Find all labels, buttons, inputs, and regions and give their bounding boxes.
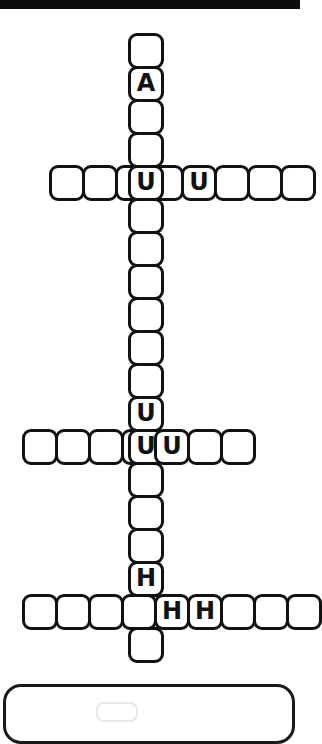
crossword-cell[interactable]: U <box>154 429 190 465</box>
crossword-cell[interactable] <box>128 627 164 663</box>
crossword-cell[interactable] <box>128 99 164 135</box>
cell-letter: H <box>162 599 182 623</box>
crossword-cell[interactable] <box>128 330 164 366</box>
crossword-cell[interactable]: H <box>187 594 223 630</box>
crossword-cell[interactable] <box>220 429 256 465</box>
crossword-cell[interactable] <box>88 429 124 465</box>
cell-letter: U <box>136 170 156 194</box>
crossword-cell[interactable] <box>214 165 250 201</box>
crossword-cell[interactable] <box>280 165 316 201</box>
crossword-cell[interactable] <box>286 594 322 630</box>
crossword-cell[interactable] <box>128 297 164 333</box>
crossword-cell[interactable] <box>128 33 164 69</box>
crossword-cell[interactable] <box>55 429 91 465</box>
crossword-cell[interactable] <box>22 429 58 465</box>
crossword-cell[interactable] <box>128 363 164 399</box>
crossword-cell[interactable] <box>128 231 164 267</box>
crossword-cell[interactable] <box>128 198 164 234</box>
crossword-cell[interactable] <box>82 165 118 201</box>
crossword-cell[interactable] <box>220 594 256 630</box>
crossword-cell[interactable]: U <box>181 165 217 201</box>
status-bar <box>0 0 300 9</box>
crossword-cell[interactable] <box>128 495 164 531</box>
crossword-cell[interactable] <box>128 528 164 564</box>
cell-letter: U <box>162 434 182 458</box>
cell-letter: H <box>136 566 156 590</box>
crossword-cell[interactable] <box>121 594 157 630</box>
crossword-cell[interactable]: A <box>128 66 164 102</box>
cell-letter: H <box>195 599 215 623</box>
crossword-cell[interactable] <box>49 165 85 201</box>
crossword-cell[interactable] <box>128 462 164 498</box>
crossword-cell[interactable] <box>187 429 223 465</box>
cell-letter: U <box>136 401 156 425</box>
crossword-cell[interactable]: H <box>154 594 190 630</box>
crossword-cell[interactable] <box>55 594 91 630</box>
cell-letter: U <box>189 170 209 194</box>
cell-letter: U <box>136 434 156 458</box>
crossword-cell[interactable]: U <box>128 165 164 201</box>
bottom-panel[interactable] <box>3 684 295 744</box>
crossword-cell[interactable]: H <box>128 561 164 597</box>
crossword-cell[interactable] <box>88 594 124 630</box>
crossword-cell[interactable] <box>247 165 283 201</box>
crossword-cell[interactable] <box>22 594 58 630</box>
crossword-cell[interactable] <box>128 132 164 168</box>
crossword-cell[interactable]: U <box>128 396 164 432</box>
cell-letter: A <box>137 71 156 95</box>
crossword-cell[interactable] <box>128 264 164 300</box>
crossword-cell[interactable] <box>253 594 289 630</box>
bottom-panel-handle <box>96 702 138 722</box>
